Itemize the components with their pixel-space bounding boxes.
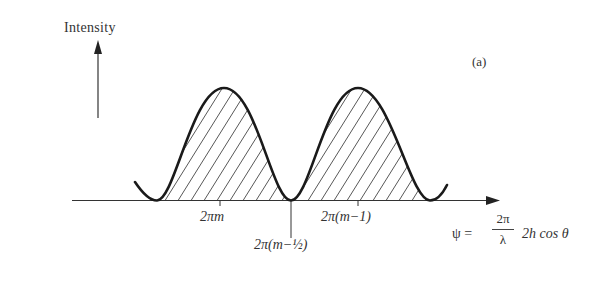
x-axis-arrowhead [486, 196, 500, 205]
panel-label: (a) [472, 54, 486, 70]
intensity-curve [135, 88, 447, 201]
formula-denominator: λ [492, 232, 514, 248]
formula-rhs: 2h cos θ [522, 226, 569, 242]
fraction-bar [492, 229, 514, 230]
formula-fraction: 2π λ [492, 211, 514, 248]
y-axis-label: Intensity [64, 20, 116, 36]
tick-label-2pim: 2πm [200, 209, 224, 225]
formula-numerator: 2π [492, 211, 514, 227]
formula-lhs: ψ = [452, 226, 472, 242]
tick-label-2pi-m-minus-half: 2π(m−½) [254, 237, 307, 253]
y-axis-arrowhead [94, 40, 102, 54]
tick-label-2pi-m-minus-1: 2π(m−1) [321, 209, 371, 225]
